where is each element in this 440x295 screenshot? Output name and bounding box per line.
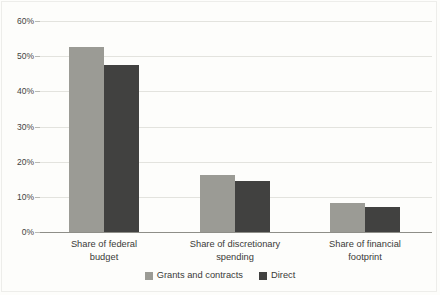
y-tick-label: 20% bbox=[0, 157, 34, 166]
legend-item[interactable]: Grants and contracts bbox=[145, 271, 243, 280]
axis-baseline bbox=[40, 232, 432, 233]
y-tick-label: 10% bbox=[0, 193, 34, 202]
x-axis-labels: Share of federalbudgetShare of discretio… bbox=[40, 238, 432, 268]
x-category-line: budget bbox=[29, 251, 179, 264]
legend-swatch-icon bbox=[145, 272, 153, 280]
bar-chart: 0%10%20%30%40%50%60% Share of federalbud… bbox=[0, 0, 440, 295]
x-category-line: Share of federal bbox=[29, 238, 179, 251]
legend-label: Direct bbox=[271, 271, 295, 280]
x-category-line: Share of financial bbox=[290, 238, 440, 251]
x-category-line: footprint bbox=[290, 251, 440, 264]
plot-area bbox=[40, 21, 432, 232]
x-category-line: spending bbox=[160, 251, 310, 264]
gridline bbox=[40, 21, 432, 22]
legend-item[interactable]: Direct bbox=[259, 271, 295, 280]
x-category-label: Share of financialfootprint bbox=[290, 238, 440, 263]
chart-legend: Grants and contractsDirect bbox=[0, 271, 440, 280]
bar-grants-and-contracts bbox=[69, 47, 104, 232]
x-category-label: Share of discretionaryspending bbox=[160, 238, 310, 263]
bar-direct bbox=[365, 207, 400, 232]
y-tick-label: 60% bbox=[0, 17, 34, 26]
y-tick-label: 40% bbox=[0, 87, 34, 96]
bar-direct bbox=[235, 181, 270, 232]
legend-label: Grants and contracts bbox=[157, 271, 243, 280]
bar-grants-and-contracts bbox=[200, 175, 235, 232]
y-tick-label: 30% bbox=[0, 122, 34, 131]
bar-direct bbox=[104, 65, 139, 232]
bar-grants-and-contracts bbox=[330, 203, 365, 232]
y-tick-label: 50% bbox=[0, 52, 34, 61]
y-axis: 0%10%20%30%40%50%60% bbox=[0, 21, 34, 232]
y-tick-label: 0% bbox=[0, 228, 34, 237]
legend-swatch-icon bbox=[259, 272, 267, 280]
x-category-line: Share of discretionary bbox=[160, 238, 310, 251]
x-category-label: Share of federalbudget bbox=[29, 238, 179, 263]
